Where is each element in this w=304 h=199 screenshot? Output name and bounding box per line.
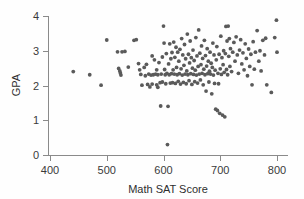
- data-point: [212, 73, 216, 77]
- data-point: [198, 51, 202, 55]
- data-point: [138, 68, 142, 72]
- data-point: [178, 47, 182, 51]
- x-tick-label: 400: [41, 164, 59, 176]
- data-point: [150, 54, 154, 58]
- data-point: [105, 38, 109, 42]
- data-point: [200, 44, 204, 48]
- data-point: [202, 67, 206, 71]
- data-point: [201, 57, 205, 61]
- data-point: [159, 72, 163, 76]
- data-point: [164, 52, 168, 56]
- data-point: [237, 71, 241, 75]
- data-point: [182, 63, 186, 67]
- data-point: [192, 59, 196, 63]
- data-point: [123, 50, 127, 54]
- data-point: [264, 36, 268, 40]
- data-point: [215, 45, 219, 49]
- data-point: [185, 32, 189, 36]
- data-point: [265, 83, 269, 87]
- data-point: [160, 55, 164, 59]
- data-point: [226, 24, 230, 28]
- data-point: [188, 61, 192, 65]
- data-point: [153, 58, 157, 62]
- data-point: [252, 67, 256, 71]
- data-point: [163, 68, 167, 72]
- y-axis-title: GPA: [10, 73, 22, 96]
- data-point: [273, 36, 277, 40]
- data-point: [205, 64, 209, 68]
- data-point: [254, 50, 258, 54]
- data-point: [142, 66, 146, 70]
- data-point: [169, 57, 173, 61]
- x-axis-ticks: 400500600700800: [41, 156, 286, 176]
- plot-area: 400500600700800 01234 Math SAT Score GPA: [0, 0, 304, 199]
- data-point: [220, 56, 224, 60]
- data-point: [184, 57, 188, 61]
- data-point: [137, 62, 141, 66]
- data-point: [180, 37, 184, 41]
- data-point: [238, 48, 242, 52]
- data-point: [251, 40, 255, 44]
- data-point: [259, 69, 263, 73]
- data-point: [184, 82, 188, 86]
- y-tick-label: 1: [33, 114, 39, 126]
- data-point: [208, 50, 212, 54]
- data-point: [179, 67, 183, 71]
- data-point: [116, 50, 120, 54]
- data-point: [223, 115, 227, 119]
- data-point: [230, 70, 234, 74]
- y-tick-label: 3: [33, 45, 39, 57]
- data-point: [257, 59, 261, 63]
- y-tick-label: 2: [33, 80, 39, 92]
- data-point: [171, 68, 175, 72]
- data-point: [250, 83, 254, 87]
- data-point: [213, 68, 217, 72]
- data-point: [232, 41, 236, 45]
- data-point: [263, 53, 267, 57]
- data-point: [126, 65, 130, 69]
- data-point: [167, 62, 171, 66]
- data-point: [162, 24, 166, 28]
- data-point: [216, 71, 220, 75]
- y-tick-label: 4: [33, 10, 39, 22]
- data-point: [198, 78, 202, 82]
- data-point: [218, 67, 222, 71]
- data-point: [172, 40, 176, 44]
- data-point: [143, 74, 147, 78]
- data-point: [244, 57, 248, 61]
- data-point: [249, 52, 253, 56]
- data-point: [177, 59, 181, 63]
- y-tick-label: 0: [33, 149, 39, 161]
- data-point: [217, 52, 221, 56]
- data-point: [213, 82, 217, 86]
- data-point: [234, 35, 238, 39]
- data-point: [221, 63, 225, 67]
- x-tick-label: 500: [98, 164, 116, 176]
- data-point: [275, 18, 279, 22]
- data-point: [71, 70, 75, 74]
- data-point: [247, 47, 251, 51]
- data-point: [191, 48, 195, 52]
- data-point: [183, 43, 187, 47]
- data-point: [166, 143, 170, 147]
- data-point: [168, 42, 172, 46]
- data-point: [155, 68, 159, 72]
- data-point: [223, 52, 227, 56]
- data-point: [205, 47, 209, 51]
- data-point: [166, 104, 170, 108]
- data-point: [139, 72, 143, 76]
- data-point: [187, 79, 191, 83]
- data-point: [156, 73, 160, 77]
- data-point: [227, 54, 231, 58]
- data-point: [175, 66, 179, 70]
- data-point: [275, 50, 279, 54]
- data-point: [210, 66, 214, 70]
- data-point: [119, 73, 123, 77]
- data-point: [207, 80, 211, 84]
- data-point: [150, 82, 154, 86]
- data-point: [164, 82, 168, 86]
- data-point: [255, 29, 259, 33]
- data-point: [226, 73, 230, 77]
- x-tick-label: 800: [268, 164, 286, 176]
- x-tick-label: 700: [211, 164, 229, 176]
